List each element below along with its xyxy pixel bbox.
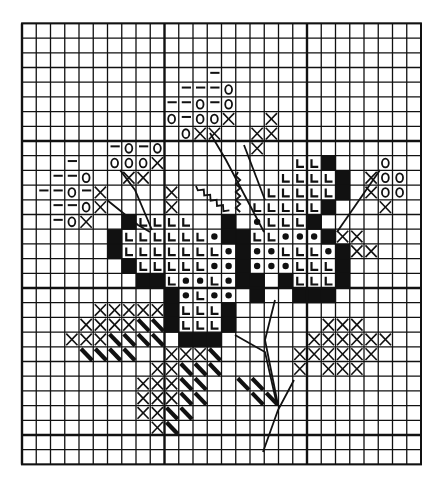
chart-background	[0, 0, 447, 491]
dot-icon	[225, 292, 231, 298]
solid-icon	[321, 288, 336, 303]
solid-icon	[136, 273, 151, 288]
solid-icon	[165, 303, 180, 318]
dot-icon	[282, 263, 288, 269]
solid-icon	[150, 273, 165, 288]
solid-icon	[336, 185, 351, 200]
solid-icon	[321, 200, 336, 215]
dot-icon	[325, 248, 331, 254]
dot-icon	[254, 263, 260, 269]
solid-icon	[222, 303, 237, 318]
solid-icon	[222, 229, 237, 244]
solid-icon	[236, 244, 251, 259]
dot-icon	[297, 233, 303, 239]
solid-icon	[336, 244, 351, 259]
solid-icon	[336, 273, 351, 288]
solid-icon	[165, 288, 180, 303]
dot-icon	[211, 233, 217, 239]
solid-icon	[279, 273, 294, 288]
solid-icon	[193, 332, 208, 347]
dot-icon	[225, 263, 231, 269]
solid-icon	[236, 273, 251, 288]
solid-icon	[122, 259, 137, 274]
cross-stitch-chart	[0, 0, 447, 491]
dot-icon	[268, 248, 274, 254]
dot-icon	[225, 248, 231, 254]
solid-icon	[321, 229, 336, 244]
solid-icon	[108, 244, 123, 259]
solid-icon	[307, 215, 322, 230]
solid-icon	[293, 288, 308, 303]
dot-icon	[268, 263, 274, 269]
solid-icon	[236, 229, 251, 244]
dot-icon	[225, 277, 231, 283]
dot-icon	[183, 277, 189, 283]
solid-icon	[321, 156, 336, 171]
dot-icon	[211, 263, 217, 269]
solid-icon	[108, 229, 123, 244]
solid-icon	[222, 317, 237, 332]
dot-icon	[197, 277, 203, 283]
dot-icon	[183, 292, 189, 298]
solid-icon	[222, 215, 237, 230]
solid-icon	[250, 288, 265, 303]
solid-icon	[207, 332, 222, 347]
solid-icon	[179, 332, 194, 347]
solid-icon	[165, 317, 180, 332]
dot-icon	[211, 292, 217, 298]
dot-icon	[311, 233, 317, 239]
solid-icon	[336, 170, 351, 185]
solid-icon	[307, 288, 322, 303]
dot-icon	[282, 233, 288, 239]
solid-icon	[250, 273, 265, 288]
solid-icon	[336, 259, 351, 274]
dot-icon	[254, 248, 260, 254]
solid-icon	[236, 259, 251, 274]
